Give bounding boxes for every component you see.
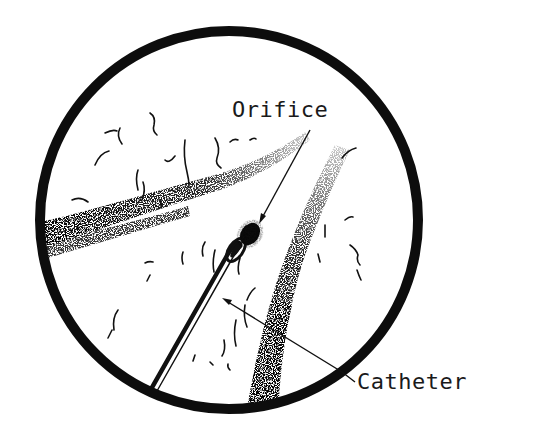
catheter-label: Catheter bbox=[357, 369, 467, 394]
orifice-label: Orifice bbox=[232, 97, 328, 122]
diagram-canvas: Orifice Catheter bbox=[0, 0, 533, 430]
mucosal-fold-left bbox=[40, 132, 310, 260]
catheter-tube bbox=[152, 235, 249, 392]
mucosal-texture-marks bbox=[72, 113, 361, 370]
field-of-view-contents bbox=[40, 113, 361, 420]
orifice-pointer-arrow bbox=[259, 130, 310, 224]
diagram-svg bbox=[0, 0, 533, 430]
